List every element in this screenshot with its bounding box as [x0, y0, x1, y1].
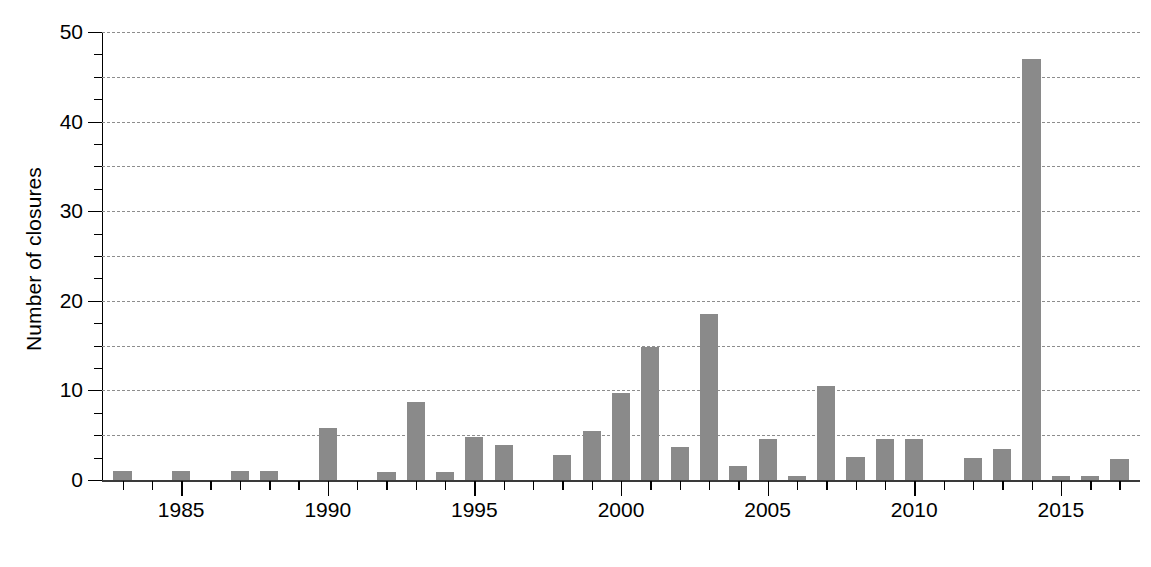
bar	[788, 476, 806, 480]
bar	[436, 472, 454, 480]
x-tick-label: 2010	[854, 498, 974, 522]
y-tick-major	[88, 211, 102, 212]
y-tick-minor	[94, 234, 102, 235]
x-tick-minor	[1002, 481, 1003, 490]
x-tick-minor	[1119, 481, 1120, 490]
x-tick-label: 2005	[708, 498, 828, 522]
bar	[553, 455, 571, 480]
bar	[817, 386, 835, 480]
y-tick-major	[88, 480, 102, 481]
x-tick-label: 1995	[414, 498, 534, 522]
x-tick-minor	[592, 481, 593, 490]
y-tick-minor	[94, 346, 102, 347]
bar	[407, 402, 425, 480]
bar	[113, 471, 131, 480]
x-tick-minor	[738, 481, 739, 490]
y-tick-minor	[94, 166, 102, 167]
x-tick-major	[621, 481, 622, 496]
x-tick-minor	[210, 481, 211, 490]
x-tick-minor	[944, 481, 945, 490]
x-tick-minor	[680, 481, 681, 490]
bar	[1022, 59, 1040, 480]
x-tick-major	[328, 481, 329, 496]
x-tick-minor	[1090, 481, 1091, 490]
x-tick-minor	[357, 481, 358, 490]
bar	[583, 431, 601, 480]
x-tick-minor	[856, 481, 857, 490]
y-tick-minor	[94, 368, 102, 369]
bar	[964, 458, 982, 480]
x-tick-minor	[797, 481, 798, 490]
x-tick-label: 1985	[121, 498, 241, 522]
y-tick-label: 50	[23, 21, 83, 42]
y-tick-minor	[94, 144, 102, 145]
y-tick-minor	[94, 458, 102, 459]
x-tick-major	[474, 481, 475, 496]
bar	[729, 466, 747, 480]
x-tick-label: 2015	[1001, 498, 1121, 522]
x-tick-minor	[386, 481, 387, 490]
x-tick-minor	[416, 481, 417, 490]
x-tick-minor	[973, 481, 974, 490]
bar	[671, 447, 689, 480]
y-tick-label: 0	[23, 469, 83, 490]
y-tick-major	[88, 122, 102, 123]
bar	[465, 437, 483, 480]
x-tick-minor	[562, 481, 563, 490]
y-tick-major	[88, 390, 102, 391]
y-tick-major	[88, 301, 102, 302]
y-tick-label: 30	[23, 200, 83, 221]
x-tick-minor	[709, 481, 710, 490]
y-tick-minor	[94, 323, 102, 324]
bar	[612, 393, 630, 480]
x-tick-minor	[123, 481, 124, 490]
x-tick-major	[181, 481, 182, 496]
y-tick-minor	[94, 256, 102, 257]
bar	[377, 472, 395, 480]
y-axis-title: Number of closures	[22, 29, 46, 489]
bar	[641, 347, 659, 480]
y-tick-major	[88, 32, 102, 33]
x-tick-minor	[650, 481, 651, 490]
bar-chart: Number of closures 01020304050 198519901…	[0, 0, 1151, 567]
y-tick-minor	[94, 189, 102, 190]
bar	[495, 445, 513, 480]
bar	[993, 449, 1011, 480]
bar	[905, 439, 923, 480]
y-tick-label: 40	[23, 111, 83, 132]
x-tick-label: 2000	[561, 498, 681, 522]
bar	[1052, 476, 1070, 480]
bar	[846, 457, 864, 480]
bar	[1110, 459, 1128, 481]
bar-series	[102, 32, 1140, 480]
bar	[759, 439, 777, 480]
y-tick-label: 10	[23, 379, 83, 400]
x-tick-major	[914, 481, 915, 496]
y-tick-label: 20	[23, 290, 83, 311]
bar	[1081, 476, 1099, 480]
x-tick-minor	[152, 481, 153, 490]
x-tick-label: 1990	[268, 498, 388, 522]
bar	[319, 428, 337, 480]
bar	[700, 314, 718, 480]
x-tick-minor	[826, 481, 827, 490]
y-tick-minor	[94, 435, 102, 436]
x-tick-major	[768, 481, 769, 496]
y-tick-minor	[94, 278, 102, 279]
y-tick-minor	[94, 77, 102, 78]
x-tick-minor	[885, 481, 886, 490]
y-tick-minor	[94, 99, 102, 100]
bar	[231, 471, 249, 480]
bar	[172, 471, 190, 480]
x-tick-minor	[298, 481, 299, 490]
y-tick-minor	[94, 413, 102, 414]
x-tick-minor	[504, 481, 505, 490]
bar	[876, 439, 894, 480]
y-tick-minor	[94, 54, 102, 55]
x-tick-minor	[1032, 481, 1033, 490]
x-tick-minor	[533, 481, 534, 490]
bar	[260, 471, 278, 480]
x-tick-minor	[269, 481, 270, 490]
x-tick-minor	[445, 481, 446, 490]
x-tick-minor	[240, 481, 241, 490]
